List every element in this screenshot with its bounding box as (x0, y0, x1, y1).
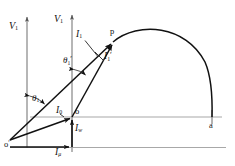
phasor-diagram-figure: V1 V1 I1 I1′ θ1′ θ1 I0 Iw Iμ p a o o′ (0, 0, 235, 166)
angle-label-theta1-prime: θ1′ (63, 56, 72, 66)
axis-label-v1-right: V1 (54, 14, 63, 25)
axis-label-v1-left: V1 (9, 21, 18, 32)
vector-i0 (10, 119, 70, 141)
leader-line-i1-prime (95, 52, 104, 61)
vector-label-i1: I1 (76, 30, 82, 40)
circle-diagram-arc (113, 29, 212, 117)
vector-label-imu: Iμ (55, 148, 61, 158)
diagram-canvas (0, 0, 235, 166)
point-label-p: p (110, 27, 114, 36)
origin-label-o-prime: o′ (4, 140, 10, 149)
origin-label-o: o (75, 107, 79, 116)
vector-label-i1-prime: I1′ (104, 52, 112, 63)
vector-label-iw: Iw (75, 124, 82, 134)
angle-label-theta1: θ1 (32, 94, 39, 104)
vector-i1 (10, 44, 111, 140)
leader-line-i1 (85, 41, 98, 57)
vector-label-i0: I0 (56, 106, 62, 116)
point-label-a: a (209, 121, 213, 130)
